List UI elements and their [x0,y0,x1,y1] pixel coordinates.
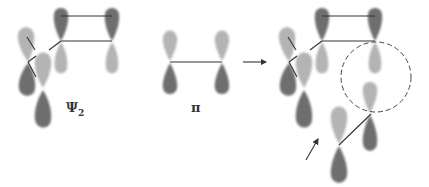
orbital-lobe [19,63,35,96]
orbital-lobe [163,31,177,62]
orbital-lobe [316,42,329,73]
orbital-lobe [35,90,51,128]
orbital-lobe [215,63,229,94]
orbital-lobe [331,146,347,183]
orbital-lobe [331,107,347,145]
orbital-lobe [368,8,382,41]
orbital-lobe [363,82,377,113]
orbital-lobe [55,42,68,73]
orbital-lobe [54,8,68,41]
orbital-lobe [163,63,177,94]
orbital-lobe [296,53,312,89]
orbital-diagram [0,0,429,187]
orbital-lobe [369,42,382,73]
result-panel [279,8,382,183]
orbital-lobe [280,63,296,96]
orbital-lobe [315,8,329,41]
attack-arrow-icon [306,139,318,160]
pi-label: π [191,100,201,115]
orbital-lobe [105,8,119,41]
orbital-lobe [35,53,51,89]
orbital-lobe [296,90,312,128]
psi2-label: Ψ2 [66,100,84,118]
orbital-lobe [106,42,119,73]
orbital-lobe [215,31,229,62]
